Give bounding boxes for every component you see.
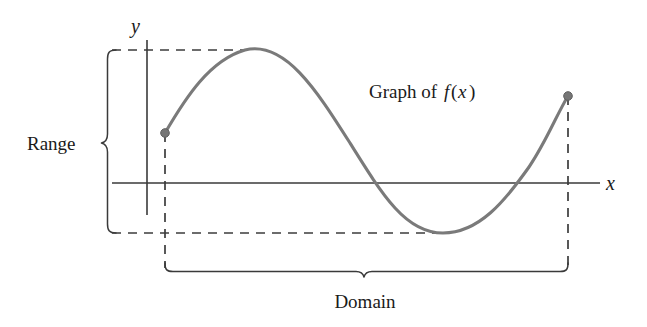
graph-of-fx-label: Graph of f ( x ) <box>369 81 475 103</box>
domain-label: Domain <box>334 291 396 312</box>
range-label: Range <box>27 133 76 154</box>
y-axis-label: y <box>129 15 140 38</box>
range-brace <box>102 50 117 233</box>
function-curve <box>165 49 568 233</box>
graph-of-prefix: Graph of <box>369 81 438 102</box>
figure-canvas: Range y x Graph of f ( x ) Domain <box>0 0 647 327</box>
function-graph-figure: Range y x Graph of f ( x ) Domain <box>0 0 647 327</box>
graph-of-paren-close: ) <box>469 81 475 103</box>
domain-brace <box>165 263 568 277</box>
graph-of-variable: x <box>457 81 467 102</box>
x-axis-label: x <box>605 172 615 194</box>
graph-of-paren-open: ( <box>451 81 457 103</box>
curve-left-endpoint-dot <box>161 129 170 138</box>
curve-right-endpoint-dot <box>564 92 573 101</box>
